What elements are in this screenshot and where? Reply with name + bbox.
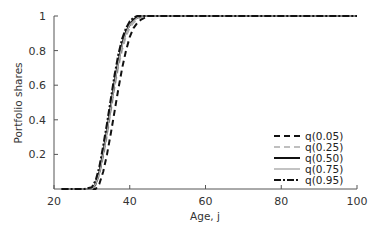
x-tick-label: 40 (123, 195, 137, 208)
chart: 204060801000.20.40.60.81 q(0.05)q(0.25)q… (0, 0, 385, 227)
x-axis-label: Age, j (190, 210, 220, 222)
legend-label: q(0.95) (305, 174, 343, 186)
legend: q(0.05)q(0.25)q(0.50)q(0.75)q(0.95) (274, 130, 343, 186)
y-tick-label: 0.8 (29, 45, 47, 58)
y-tick-label: 0.2 (29, 148, 47, 161)
x-tick-label: 80 (274, 195, 288, 208)
x-tick-label: 20 (47, 195, 61, 208)
y-tick-label: 0.6 (29, 79, 47, 92)
y-tick-label: 0.4 (29, 114, 47, 127)
y-axis-label: Portfolio shares (12, 62, 24, 143)
y-tick-label: 1 (39, 10, 46, 23)
x-tick-label: 60 (199, 195, 213, 208)
x-tick-label: 100 (347, 195, 368, 208)
